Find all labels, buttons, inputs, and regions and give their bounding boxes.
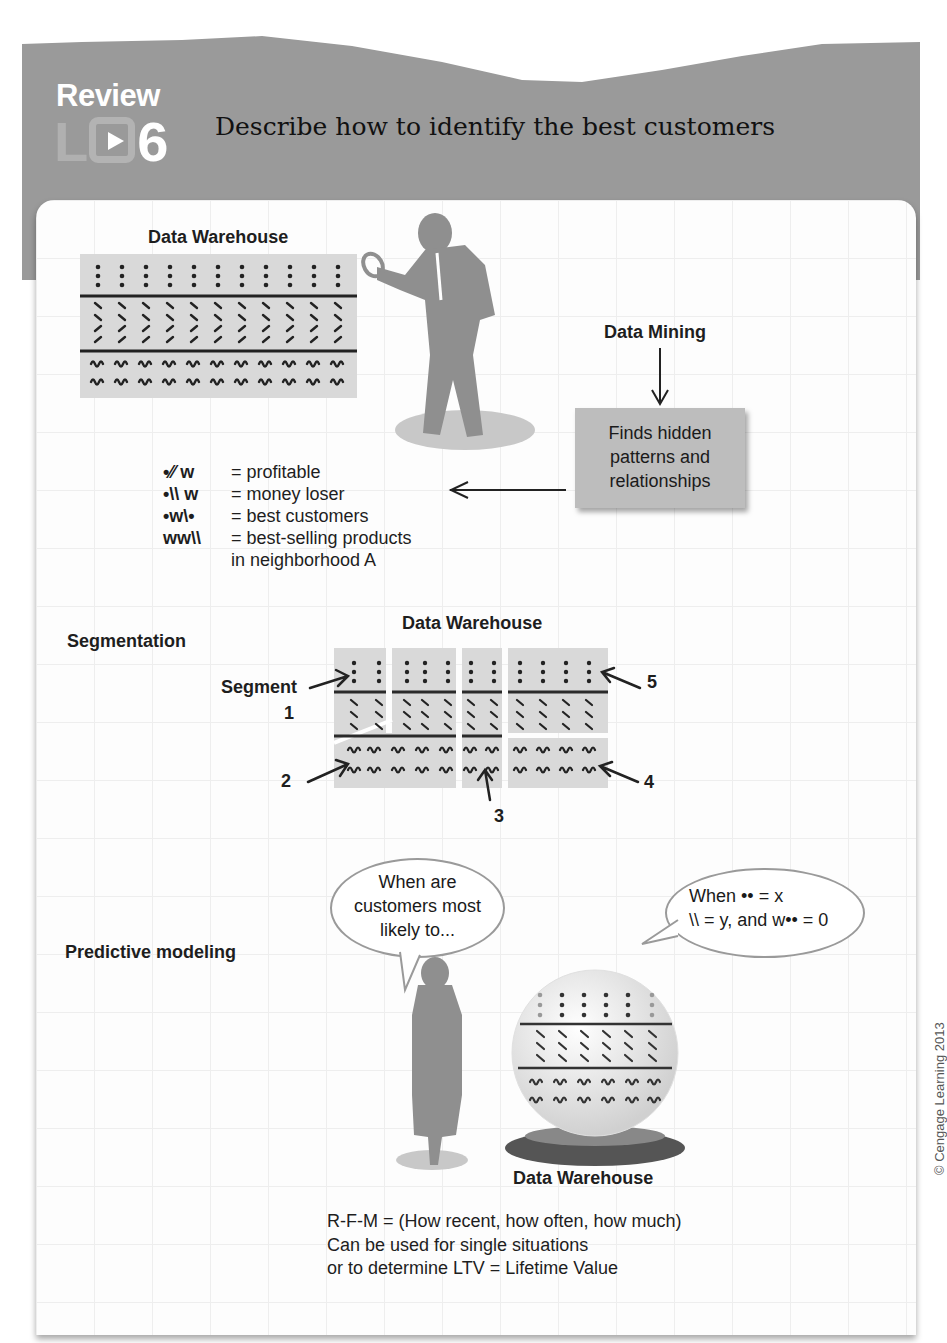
arrow-left-icon [448, 480, 568, 500]
detective-silhouette [355, 205, 535, 455]
box-line: relationships [575, 469, 745, 493]
segment-arrows [300, 660, 680, 820]
bubble-line: \\ = y, and ᴡ•• = 0 [689, 908, 863, 932]
legend-item-profitable: •⁄⁄ ᴡ= profitable [163, 461, 412, 483]
lo-prefix: L [54, 110, 87, 173]
data-warehouse-table [80, 254, 357, 398]
rfm-description: R-F-M = (How recent, how often, how much… [327, 1210, 682, 1281]
warehouse-pattern [80, 254, 357, 398]
segmentation-label: Segmentation [67, 631, 186, 652]
segment-number-2: 2 [281, 771, 291, 792]
legend-item-neighborhood: in neighborhood A [163, 549, 412, 571]
question-bubble: When are customers most likely to... [330, 858, 505, 958]
data-mining-label: Data Mining [604, 322, 706, 343]
play-icon [89, 117, 135, 163]
segment-label: Segment [221, 677, 297, 698]
bubble-line: When •• = x [689, 884, 863, 908]
box-line: patterns and [575, 445, 745, 469]
review-label: Review [56, 78, 160, 114]
warehouse-title-1: Data Warehouse [148, 227, 288, 248]
copyright-notice: © Cengage Learning 2013 [932, 1022, 947, 1175]
box-line: Finds hidden [575, 421, 745, 445]
legend: •⁄⁄ ᴡ= profitable •\\ ᴡ= money loser •ᴡ\… [163, 461, 412, 571]
woman-silhouette [390, 955, 480, 1175]
predictive-modeling-label: Predictive modeling [65, 942, 236, 963]
bubble-line: likely to... [332, 918, 503, 942]
rfm-line: R-F-M = (How recent, how often, how much… [327, 1210, 682, 1234]
rfm-line: or to determine LTV = Lifetime Value [327, 1257, 682, 1281]
page-title: Describe how to identify the best custom… [215, 112, 775, 141]
answer-bubble: When •• = x \\ = y, and ᴡ•• = 0 [665, 868, 865, 958]
bubble-line: When are [332, 870, 503, 894]
finds-patterns-box: Finds hidden patterns and relationships [575, 408, 745, 508]
segment-number-1: 1 [284, 703, 294, 724]
legend-item-best-customers: •ᴡ\•= best customers [163, 505, 412, 527]
warehouse-title-2: Data Warehouse [402, 613, 542, 634]
lo-number: 6 [137, 110, 167, 173]
rfm-line: Can be used for single situations [327, 1234, 682, 1258]
lo-badge: L6 [54, 114, 167, 170]
legend-item-best-selling: ᴡᴡ\\= best-selling products [163, 527, 412, 549]
warehouse-title-3: Data Warehouse [513, 1168, 653, 1189]
answer-bubble-tail [640, 918, 680, 948]
legend-item-money-loser: •\\ ᴡ= money loser [163, 483, 412, 505]
bubble-line: customers most [332, 894, 503, 918]
crystal-ball-warehouse [500, 958, 690, 1168]
arrow-down-icon [650, 348, 670, 406]
